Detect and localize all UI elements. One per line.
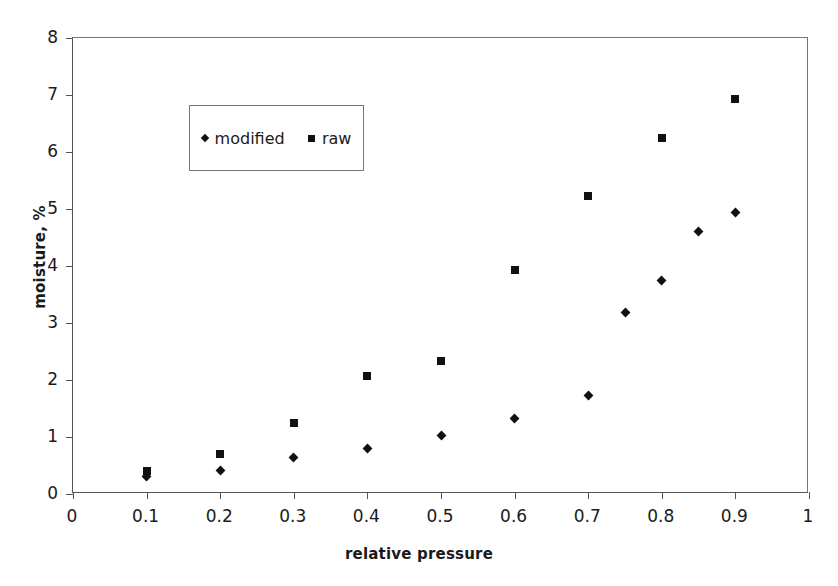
y-tick	[66, 95, 73, 96]
y-tick-label: 3	[28, 312, 58, 332]
x-tick-label: 0.6	[500, 506, 527, 526]
y-tick	[66, 152, 73, 153]
data-point-modified	[657, 275, 667, 285]
x-axis-title: relative pressure	[0, 545, 838, 563]
y-tick	[66, 323, 73, 324]
data-point-raw	[437, 357, 445, 365]
y-tick-label: 5	[28, 198, 58, 218]
scatter-chart: moisture, % relative pressure modifiedra…	[0, 0, 838, 586]
data-point-modified	[436, 430, 446, 440]
x-tick-label: 1	[803, 506, 814, 526]
data-point-raw	[143, 467, 151, 475]
data-point-raw	[731, 95, 739, 103]
data-point-raw	[290, 419, 298, 427]
data-point-modified	[620, 307, 630, 317]
x-tick	[515, 492, 516, 499]
x-tick	[735, 492, 736, 499]
y-tick	[66, 494, 73, 495]
y-tick	[66, 38, 73, 39]
x-tick	[809, 492, 810, 499]
y-tick	[66, 209, 73, 210]
legend-label: modified	[215, 129, 285, 148]
plot-area: modifiedraw	[72, 37, 808, 493]
x-tick-label: 0.8	[647, 506, 674, 526]
x-tick	[147, 492, 148, 499]
x-tick	[662, 492, 663, 499]
legend-entry-modified: modified	[202, 129, 285, 148]
y-tick-label: 7	[28, 84, 58, 104]
diamond-marker-icon	[200, 134, 208, 142]
data-point-modified	[694, 226, 704, 236]
x-tick	[441, 492, 442, 499]
data-point-raw	[584, 192, 592, 200]
data-point-raw	[511, 266, 519, 274]
y-tick	[66, 266, 73, 267]
y-tick	[66, 437, 73, 438]
y-tick-label: 6	[28, 141, 58, 161]
data-point-modified	[215, 465, 225, 475]
x-tick	[588, 492, 589, 499]
data-point-modified	[730, 207, 740, 217]
legend-label: raw	[322, 129, 351, 148]
x-tick-label: 0.4	[353, 506, 380, 526]
data-point-raw	[363, 372, 371, 380]
y-tick-label: 8	[28, 27, 58, 47]
data-point-modified	[289, 453, 299, 463]
x-tick-label: 0.3	[279, 506, 306, 526]
y-tick-label: 0	[28, 483, 58, 503]
legend-entry-raw: raw	[308, 129, 351, 148]
x-tick-label: 0	[67, 506, 78, 526]
square-marker-icon	[308, 135, 315, 142]
x-tick-label: 0.7	[574, 506, 601, 526]
x-tick-label: 0.1	[132, 506, 159, 526]
chart-legend: modifiedraw	[189, 105, 364, 171]
x-tick-label: 0.5	[426, 506, 453, 526]
x-tick	[294, 492, 295, 499]
x-tick	[367, 492, 368, 499]
data-point-raw	[216, 450, 224, 458]
data-point-raw	[658, 134, 666, 142]
x-tick-label: 0.9	[721, 506, 748, 526]
x-tick	[220, 492, 221, 499]
x-tick	[73, 492, 74, 499]
data-point-modified	[583, 390, 593, 400]
y-tick-label: 2	[28, 369, 58, 389]
y-tick-label: 1	[28, 426, 58, 446]
y-tick	[66, 380, 73, 381]
data-point-modified	[362, 443, 372, 453]
y-tick-label: 4	[28, 255, 58, 275]
data-point-modified	[510, 414, 520, 424]
x-tick-label: 0.2	[206, 506, 233, 526]
